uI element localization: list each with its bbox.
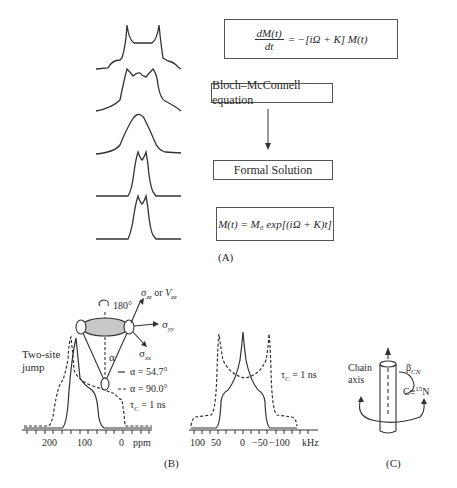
ppm-tick-100: 100 [77,437,92,448]
two-site-jump-label: Two-site jump [22,348,60,374]
panel-b-diagram [0,0,457,488]
ppm-tick-0: 0 [119,437,124,448]
tau-c-left-label: τC = 1 ns [130,399,166,413]
chain-axis-label: Chain axis [348,362,372,386]
khz-tick-minus100: −100 [269,437,290,448]
rotation-180-label: 180° [113,300,132,311]
sigma-yy-label: σyy [162,318,174,333]
legend-solid-label: α = 54.7° [130,366,167,377]
beta-cn-label: βCN [406,362,420,376]
panel-c-label: (C) [386,457,401,469]
sigma-zz-label: σzz or Vzz [141,287,177,301]
khz-tick-minus50: −50 [252,437,268,448]
sigma-xx-label: σxx [139,347,151,362]
khz-tick-100: 100 [190,437,205,448]
khz-tick-0: 0 [240,437,245,448]
khz-axis [189,430,318,434]
khz-unit: kHz [302,437,319,448]
alpha-label: α [109,351,115,363]
khz-tick-50: 50 [211,437,221,448]
ppm-tick-200: 200 [42,437,57,448]
panel-b-label: (B) [164,457,179,469]
ppm-axis [22,430,152,434]
bond-label: C≡15N [403,385,430,397]
legend-dashed-label: α = 90.0° [130,383,167,394]
ppm-unit: ppm [133,437,151,448]
tau-c-right-label: τC = 1 ns [281,369,317,383]
